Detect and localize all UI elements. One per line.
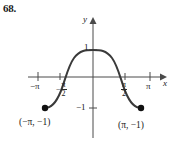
- fraction-neg-pi-half: π 2: [61, 81, 67, 98]
- fraction-denominator: 2: [61, 90, 67, 98]
- y-tick-label-neg-one: −1: [76, 103, 86, 112]
- x-tick-label-neg-pi-half: − π 2: [56, 81, 67, 98]
- right-endpoint-dot: [138, 105, 144, 111]
- y-axis-arrow-icon: [90, 17, 97, 24]
- x-tick-label-neg-pi: −π: [30, 82, 40, 91]
- fraction-denominator: 2: [121, 90, 127, 98]
- figure-container: 68. y x 1 −1 −π π − π 2: [0, 0, 171, 141]
- left-endpoint-dot: [42, 105, 48, 111]
- y-tick-label-one: 1: [84, 43, 89, 52]
- x-tick-label-pi: π: [146, 82, 151, 91]
- left-endpoint-label: (−π, −1): [19, 117, 50, 127]
- x-tick-label-pi-half: π 2: [121, 81, 127, 98]
- y-axis-label: y: [83, 15, 87, 24]
- x-axis-label: x: [163, 79, 167, 88]
- right-endpoint-label: (π, −1): [118, 120, 144, 130]
